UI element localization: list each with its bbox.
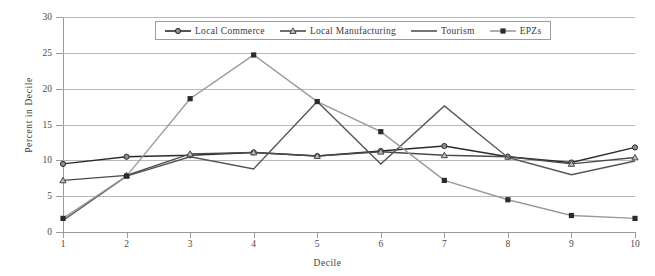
y-axis-tick-label: 5 [47, 191, 52, 201]
data-point [632, 216, 637, 221]
y-axis-tick-label: 20 [43, 84, 53, 94]
y-axis-tick [56, 232, 63, 233]
y-axis-tick-label: 15 [43, 120, 53, 130]
x-axis-tick [444, 232, 445, 238]
gridline [63, 232, 635, 233]
data-point [569, 213, 574, 218]
legend-item-epzs[interactable]: EPZs [490, 26, 542, 36]
y-axis-tick [56, 125, 63, 126]
legend-item-local-manufacturing[interactable]: Local Manufacturing [280, 26, 396, 36]
x-axis-tick [571, 232, 572, 238]
y-axis-tick-label: 10 [43, 155, 53, 165]
legend-marker-square-icon [490, 26, 516, 36]
x-axis-tick [254, 232, 255, 238]
y-axis-tick [56, 17, 63, 18]
y-axis-tick [56, 196, 63, 197]
y-axis-title: Percent in Decile [24, 45, 34, 185]
series-local-commerce [60, 143, 637, 166]
x-axis-tick-label: 5 [315, 239, 320, 249]
x-axis-tick [381, 232, 382, 238]
legend-marker-triangle-icon [280, 26, 306, 36]
legend-label: EPZs [520, 26, 542, 36]
legend-label: Local Commerce [195, 26, 265, 36]
legend-label: Tourism [441, 26, 475, 36]
series-lines [63, 17, 635, 232]
y-axis-tick [56, 53, 63, 54]
series-epzs [60, 52, 637, 221]
x-axis-tick-label: 3 [188, 239, 193, 249]
y-axis-tick-label: 30 [43, 12, 53, 22]
legend-item-tourism[interactable]: Tourism [411, 26, 475, 36]
data-point [251, 52, 256, 57]
legend-label: Local Manufacturing [310, 26, 396, 36]
data-point [188, 96, 193, 101]
x-axis-tick [317, 232, 318, 238]
legend-marker-line-icon [411, 26, 437, 36]
x-axis-tick-label: 9 [569, 239, 574, 249]
data-point [315, 99, 320, 104]
data-point [442, 178, 447, 183]
x-axis-tick-label: 1 [61, 239, 66, 249]
data-point [378, 129, 383, 134]
line-chart: Percent in Decile Decile 051015202530 12… [0, 0, 655, 276]
data-point [60, 216, 65, 221]
x-axis-tick-label: 8 [506, 239, 511, 249]
data-point [124, 174, 129, 179]
x-axis-tick [63, 232, 64, 238]
data-point [505, 197, 510, 202]
y-axis-tick [56, 89, 63, 90]
x-axis-tick-label: 2 [124, 239, 129, 249]
x-axis-tick-label: 6 [378, 239, 383, 249]
x-axis-tick-label: 7 [442, 239, 447, 249]
series-line [63, 55, 635, 218]
x-axis-tick [635, 232, 636, 238]
legend-item-local-commerce[interactable]: Local Commerce [165, 26, 265, 36]
data-point [124, 154, 129, 159]
x-axis-tick-label: 10 [630, 239, 640, 249]
plot-area: 051015202530 12345678910 [63, 17, 635, 232]
data-point [60, 161, 65, 166]
legend-marker-circle-icon [165, 26, 191, 36]
x-axis-tick [127, 232, 128, 238]
y-axis-tick-label: 25 [43, 48, 53, 58]
x-axis-tick-label: 4 [251, 239, 256, 249]
y-axis-tick-label: 0 [47, 227, 52, 237]
data-point [632, 145, 637, 150]
x-axis-title: Decile [0, 258, 655, 268]
data-point [442, 143, 447, 148]
x-axis-tick [190, 232, 191, 238]
x-axis-tick [508, 232, 509, 238]
legend: Local CommerceLocal ManufacturingTourism… [155, 21, 551, 40]
series-local-manufacturing [60, 149, 638, 183]
